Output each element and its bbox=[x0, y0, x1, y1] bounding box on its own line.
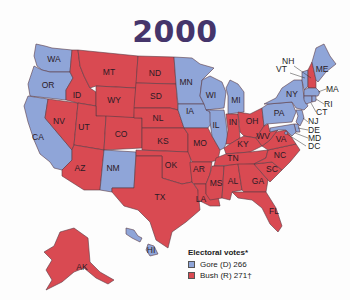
legend-item-bush: Bush (R) 271† bbox=[188, 271, 252, 280]
gore-swatch-icon bbox=[188, 261, 195, 268]
label-az: AZ bbox=[75, 163, 86, 173]
bush-swatch-icon bbox=[188, 272, 195, 279]
label-wv: WV bbox=[256, 131, 270, 141]
label-oh: OH bbox=[246, 116, 259, 126]
label-nd: ND bbox=[149, 68, 161, 78]
label-ut: UT bbox=[78, 122, 89, 132]
label-vt: VT bbox=[276, 64, 287, 74]
label-nc: NC bbox=[274, 150, 286, 160]
label-il: IL bbox=[212, 120, 219, 130]
label-nm: NM bbox=[106, 163, 119, 173]
label-mo: MO bbox=[193, 138, 207, 148]
label-id: ID bbox=[73, 90, 82, 100]
label-tx: TX bbox=[155, 192, 166, 202]
legend-label-gore: Gore (D) 266 bbox=[200, 260, 247, 269]
label-mt: MT bbox=[103, 67, 115, 77]
label-sc: SC bbox=[266, 164, 278, 174]
label-ma: MA bbox=[326, 84, 339, 94]
label-sd: SD bbox=[150, 91, 162, 101]
state-hi-islands[interactable] bbox=[126, 228, 142, 242]
legend-label-bush: Bush (R) 271† bbox=[200, 271, 252, 280]
state-me[interactable] bbox=[312, 44, 336, 82]
state-nj[interactable] bbox=[296, 110, 304, 126]
label-al: AL bbox=[228, 176, 239, 186]
label-ga: GA bbox=[252, 176, 265, 186]
label-ms: MS bbox=[210, 178, 223, 188]
label-ca: CA bbox=[32, 132, 44, 142]
label-ak: AK bbox=[76, 262, 88, 272]
us-electoral-map: WA OR CA NV ID MT WY UT CO AZ NM ND SD N… bbox=[0, 0, 350, 300]
label-wy: WY bbox=[107, 95, 121, 105]
label-ky: KY bbox=[237, 139, 249, 149]
label-wa: WA bbox=[47, 54, 61, 64]
label-tn: TN bbox=[227, 153, 238, 163]
label-la: LA bbox=[196, 194, 207, 204]
label-ok: OK bbox=[165, 160, 178, 170]
label-ar: AR bbox=[193, 164, 205, 174]
label-va: VA bbox=[276, 134, 287, 144]
label-wi: WI bbox=[206, 90, 216, 100]
label-nv: NV bbox=[53, 116, 65, 126]
state-ak[interactable] bbox=[44, 228, 114, 290]
label-co: CO bbox=[115, 129, 128, 139]
label-nl: NL bbox=[153, 113, 164, 123]
label-in: IN bbox=[229, 117, 238, 127]
label-ia: IA bbox=[186, 106, 194, 116]
legend-item-gore: Gore (D) 266 bbox=[188, 260, 252, 269]
legend: Electoral votes* Gore (D) 266 Bush (R) 2… bbox=[188, 248, 252, 282]
label-mi: MI bbox=[231, 95, 240, 105]
label-ny: NY bbox=[286, 89, 298, 99]
label-or: OR bbox=[42, 80, 55, 90]
state-ri[interactable] bbox=[312, 96, 316, 102]
state-ct[interactable] bbox=[304, 96, 312, 104]
state-ma[interactable] bbox=[304, 88, 320, 96]
legend-header: Electoral votes* bbox=[188, 248, 252, 257]
label-ks: KS bbox=[157, 136, 169, 146]
label-hi: HI bbox=[147, 245, 156, 255]
label-pa: PA bbox=[274, 108, 285, 118]
label-mn: MN bbox=[179, 77, 192, 87]
label-fl: FL bbox=[269, 206, 279, 216]
label-me: ME bbox=[316, 64, 329, 74]
label-dc: DC bbox=[308, 141, 320, 151]
